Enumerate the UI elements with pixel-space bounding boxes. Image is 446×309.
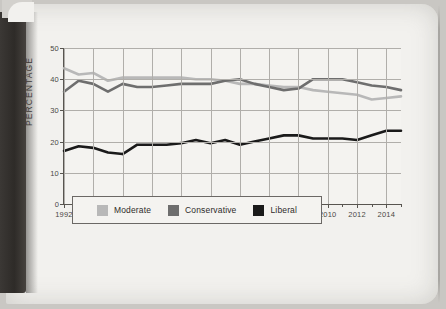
legend-item-liberal[interactable]: Liberal: [253, 205, 297, 216]
book-spine: [0, 12, 26, 293]
gridline-horizontal: [64, 173, 401, 174]
x-tickmark-minor: [372, 204, 373, 207]
x-tick-label: 1992: [55, 210, 73, 219]
x-tick-label: 2014: [378, 210, 396, 219]
gridline-horizontal: [64, 142, 401, 143]
gridline-horizontal: [64, 79, 401, 80]
gridline-vertical: [181, 48, 182, 204]
legend-swatch-conservative: [168, 205, 179, 216]
gridline-horizontal: [64, 110, 401, 111]
x-tickmark-minor: [342, 204, 343, 207]
legend-swatch-moderate: [97, 205, 108, 216]
x-tickmark: [328, 204, 329, 208]
series-line-conservative: [64, 79, 401, 91]
y-tick-label: 10: [50, 168, 59, 177]
x-tickmark: [64, 204, 65, 208]
gridline-vertical: [123, 48, 124, 204]
legend-label-moderate: Moderate: [114, 205, 151, 215]
series-lines: [64, 48, 401, 204]
gridline-vertical: [269, 48, 270, 204]
gridline-vertical: [357, 48, 358, 204]
x-tickmark: [386, 204, 387, 208]
gridline-vertical: [298, 48, 299, 204]
x-tickmark-minor: [401, 204, 402, 207]
plot-area: 0102030405019921994199619982000200220042…: [63, 48, 401, 205]
x-tick-label: 2012: [348, 210, 366, 219]
y-tick-label: 30: [50, 106, 59, 115]
y-axis-label: PERCENTAGE: [24, 57, 34, 126]
y-tick-label: 20: [50, 137, 59, 146]
page-right-edge: [438, 5, 440, 303]
x-tickmark: [357, 204, 358, 208]
gridline-vertical: [152, 48, 153, 204]
gridline-vertical: [386, 48, 387, 204]
gridline-vertical: [240, 48, 241, 204]
line-chart: PERCENTAGE 01020304050199219941996199820…: [38, 34, 430, 274]
page-corner-top-left: [2, 0, 32, 18]
chart-legend: Moderate Conservative Liberal: [72, 196, 322, 224]
spine-shadow: [26, 12, 38, 293]
gridline-vertical: [64, 48, 65, 204]
legend-label-conservative: Conservative: [185, 205, 236, 215]
gridline-vertical: [211, 48, 212, 204]
legend-item-moderate[interactable]: Moderate: [97, 205, 151, 216]
legend-swatch-liberal: [253, 205, 264, 216]
page-background: PERCENTAGE 01020304050199219941996199820…: [0, 0, 446, 309]
y-tick-label: 50: [50, 44, 59, 53]
gridline-vertical: [328, 48, 329, 204]
y-tick-label: 40: [50, 75, 59, 84]
series-line-moderate: [64, 68, 401, 99]
legend-item-conservative[interactable]: Conservative: [168, 205, 236, 216]
y-tick-label: 0: [55, 200, 59, 209]
gridline-horizontal: [64, 48, 401, 49]
legend-label-liberal: Liberal: [270, 205, 297, 215]
gridline-vertical: [93, 48, 94, 204]
